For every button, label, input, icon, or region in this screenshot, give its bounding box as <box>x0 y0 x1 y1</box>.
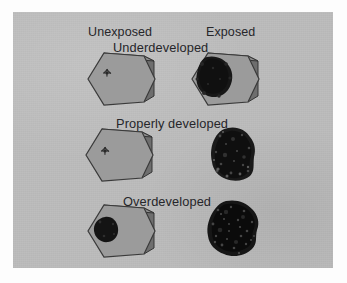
dense-silver-grain <box>207 200 258 256</box>
crystal-top-face <box>86 129 153 181</box>
column-header-unexposed: Unexposed <box>88 26 152 39</box>
specimen-unexposed-properly-developed <box>80 124 166 186</box>
column-header-exposed: Exposed <box>206 26 255 39</box>
specimen-unexposed-underdeveloped <box>82 48 168 110</box>
specimen-unexposed-overdeveloped <box>82 200 168 262</box>
developed-silver-grain <box>211 127 255 180</box>
specimen-exposed-underdeveloped <box>186 48 272 110</box>
figure-container: Unexposed Exposed Underdeveloped Properl… <box>0 0 347 283</box>
specimen-exposed-properly-developed <box>196 124 282 186</box>
crystal-top-face <box>88 53 155 105</box>
specimen-exposed-overdeveloped <box>196 198 282 260</box>
fog-deposit <box>94 217 118 242</box>
photographic-plate: Unexposed Exposed Underdeveloped Properl… <box>13 12 333 268</box>
